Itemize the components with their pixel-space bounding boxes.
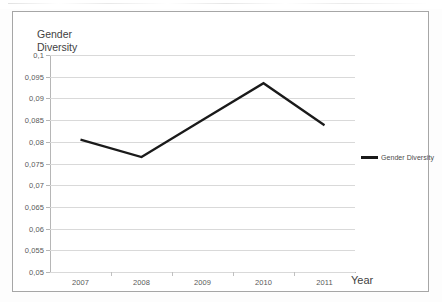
legend-label-gender-diversity: Gender Diversity	[381, 154, 434, 161]
y-tick-mark	[46, 120, 50, 121]
x-tick-label: 2011	[316, 278, 333, 287]
y-tick-mark	[46, 98, 50, 99]
y-tick-mark	[46, 55, 50, 56]
x-tick-label: 2007	[72, 278, 89, 287]
gridline	[50, 272, 355, 273]
y-tick-mark	[46, 185, 50, 186]
gridline	[50, 229, 355, 230]
x-tick-mark	[294, 272, 295, 276]
gridline	[50, 185, 355, 186]
x-tick-mark	[172, 272, 173, 276]
y-tick-label: 0,095	[0, 72, 44, 81]
gridline	[50, 250, 355, 251]
gridline	[50, 77, 355, 78]
gridline	[50, 142, 355, 143]
y-tick-label: 0,075	[0, 159, 44, 168]
y-tick-mark	[46, 77, 50, 78]
gridline	[50, 55, 355, 56]
y-tick-mark	[46, 250, 50, 251]
gridline	[50, 207, 355, 208]
x-axis-title: Year	[351, 274, 373, 286]
chart-title: Gender Diversity	[37, 28, 157, 54]
y-tick-label: 0,065	[0, 202, 44, 211]
y-tick-mark	[46, 272, 50, 273]
x-tick-mark	[233, 272, 234, 276]
y-tick-label: 0,055	[0, 246, 44, 255]
scan-artifact-strip	[0, 0, 442, 9]
y-tick-label: 0,07	[0, 181, 44, 190]
y-tick-mark	[46, 207, 50, 208]
y-tick-mark	[46, 142, 50, 143]
gridline	[50, 120, 355, 121]
y-tick-label: 0,09	[0, 94, 44, 103]
y-tick-mark	[46, 229, 50, 230]
legend: Gender Diversity	[361, 154, 434, 161]
gridline	[50, 164, 355, 165]
gridline	[50, 98, 355, 99]
y-tick-label: 0,05	[0, 268, 44, 277]
y-tick-label: 0,06	[0, 224, 44, 233]
x-tick-label: 2010	[255, 278, 272, 287]
y-tick-label: 0,08	[0, 137, 44, 146]
x-tick-mark	[111, 272, 112, 276]
x-tick-label: 2009	[194, 278, 211, 287]
y-tick-mark	[46, 164, 50, 165]
x-tick-label: 2008	[133, 278, 150, 287]
y-tick-label: 0,1	[0, 51, 44, 60]
y-tick-label: 0,085	[0, 116, 44, 125]
chart-screenshot: Gender Diversity 0,10,0950,090,0850,080,…	[0, 0, 442, 302]
legend-swatch-gender-diversity	[361, 156, 378, 158]
